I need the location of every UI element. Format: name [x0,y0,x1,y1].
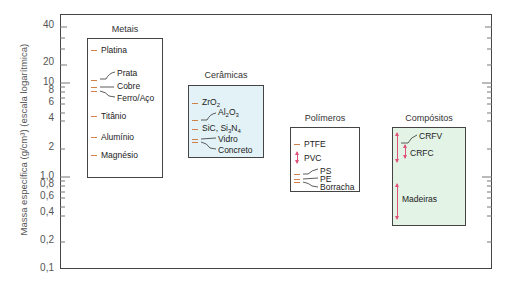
connector-lines [0,0,516,290]
